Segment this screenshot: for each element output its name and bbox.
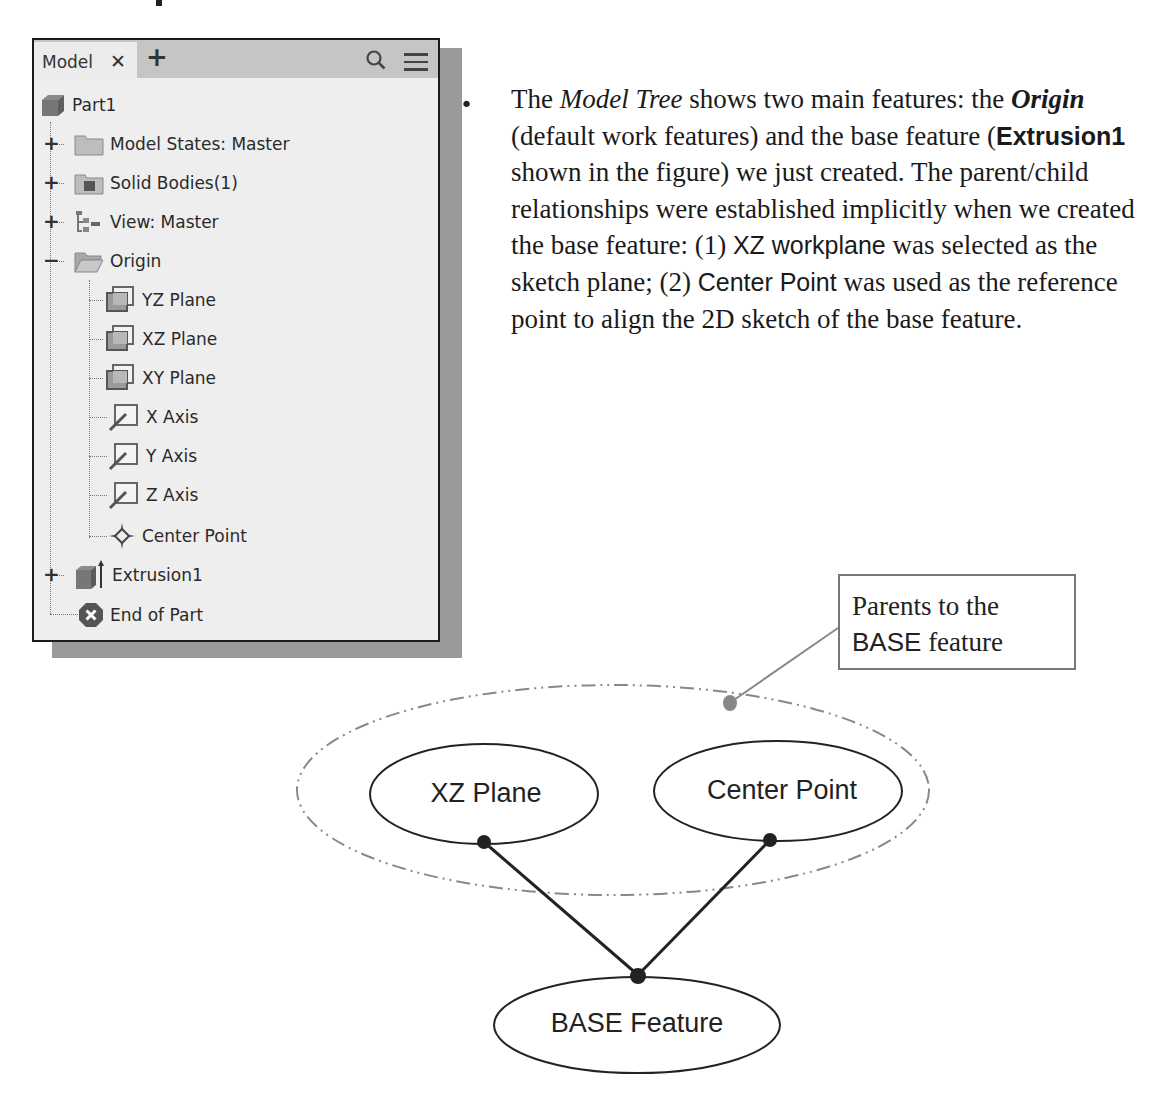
panel-tab-bar: Model ✕ + <box>34 40 438 78</box>
tree-item-xy-plane[interactable]: XY Plane <box>104 363 216 393</box>
menu-icon[interactable] <box>404 53 428 71</box>
folder-icon <box>74 132 104 156</box>
node-label-xz-plane: XZ Plane <box>430 778 541 809</box>
tree-item-label: Extrusion1 <box>112 565 203 585</box>
expand-icon[interactable]: + <box>43 209 57 233</box>
tree-item-x-axis[interactable]: X Axis <box>108 402 198 432</box>
node-label-base-feature: BASE Feature <box>551 1008 724 1039</box>
tree-item-view-master[interactable]: View: Master <box>74 207 219 237</box>
search-icon[interactable] <box>366 50 386 70</box>
tree-connector <box>89 456 107 457</box>
point-icon <box>108 522 136 550</box>
add-tab-icon[interactable]: + <box>146 44 168 70</box>
tree-item-xz-plane[interactable]: XZ Plane <box>104 324 217 354</box>
tree-item-label: Model States: Master <box>110 134 290 154</box>
connection-dot <box>763 833 777 847</box>
tree-connector <box>89 495 107 496</box>
plane-icon <box>104 363 136 393</box>
close-icon[interactable]: ✕ <box>110 50 126 72</box>
explanation-paragraph: The Model Tree shows two main features: … <box>511 81 1171 337</box>
tree-item-label: XY Plane <box>142 368 216 388</box>
plane-icon <box>104 285 136 315</box>
tree-item-label: XZ Plane <box>142 329 217 349</box>
extrusion-icon <box>74 560 106 590</box>
tree-item-label: View: Master <box>110 212 219 232</box>
heading-fragment <box>156 0 162 6</box>
text-run: shows two main features: the <box>682 84 1010 114</box>
tab-model-label: Model <box>42 52 93 72</box>
tree-item-label: End of Part <box>110 605 203 625</box>
text-run: (default work features) and the base fea… <box>511 121 996 151</box>
expand-icon[interactable]: + <box>43 562 57 586</box>
tree-item-model-states[interactable]: Model States: Master <box>74 129 290 159</box>
connection-dot <box>630 968 646 984</box>
open-folder-icon <box>74 249 104 273</box>
tree-item-label: Center Point <box>142 526 247 546</box>
callout-line-1: Parents to the <box>852 588 1074 624</box>
tree-item-y-axis[interactable]: Y Axis <box>108 441 197 471</box>
tree-item-origin[interactable]: Origin <box>74 246 161 276</box>
view-rep-icon <box>74 210 104 234</box>
term-origin: Origin <box>1011 84 1085 114</box>
tree-item-label: Part1 <box>72 95 116 115</box>
term-model-tree: Model Tree <box>560 84 683 114</box>
tree-item-label: Y Axis <box>146 446 197 466</box>
bullet-icon: • <box>460 92 473 117</box>
relation-line <box>484 842 638 975</box>
tree-connector <box>89 280 90 538</box>
tree-item-label: Solid Bodies(1) <box>110 173 238 193</box>
tree-item-solid-bodies[interactable]: Solid Bodies(1) <box>74 168 238 198</box>
tab-model[interactable]: Model ✕ <box>34 42 137 78</box>
tree-connector <box>89 536 107 537</box>
callout-box: Parents to the BASE feature <box>838 574 1076 670</box>
text-run: The <box>511 84 560 114</box>
tree-connector <box>89 300 103 301</box>
tree-connector <box>50 122 51 614</box>
tree-connector <box>89 339 103 340</box>
tree-item-z-axis[interactable]: Z Axis <box>108 480 198 510</box>
callout-term-base: BASE <box>852 627 921 657</box>
tree-item-label: X Axis <box>146 407 198 427</box>
term-center-point: Center Point <box>698 268 837 296</box>
expand-icon[interactable]: + <box>43 170 57 194</box>
axis-icon <box>108 441 140 471</box>
part-icon <box>40 93 66 117</box>
tree-item-label: Z Axis <box>146 485 198 505</box>
axis-icon <box>108 402 140 432</box>
tree-item-label: Origin <box>110 251 161 271</box>
relation-line <box>638 840 770 975</box>
tree-item-center-point[interactable]: Center Point <box>108 521 247 551</box>
tree-item-end-of-part[interactable]: End of Part <box>78 600 203 630</box>
callout-text: feature <box>921 627 1003 657</box>
tree-item-label: YZ Plane <box>142 290 216 310</box>
connection-dot <box>477 835 491 849</box>
collapse-icon[interactable]: − <box>43 248 57 272</box>
plane-icon <box>104 324 136 354</box>
callout-line-2: BASE feature <box>852 624 1074 660</box>
tree-item-extrusion1[interactable]: Extrusion1 <box>74 560 203 590</box>
end-of-part-icon <box>78 602 104 628</box>
expand-icon[interactable]: + <box>43 131 57 155</box>
leader-dot <box>723 695 737 711</box>
tree-item-yz-plane[interactable]: YZ Plane <box>104 285 216 315</box>
term-extrusion1: Extrusion1 <box>996 122 1125 150</box>
callout-leader-line <box>731 628 838 702</box>
tree-item-part1[interactable]: Part1 <box>40 90 116 120</box>
term-xz-workplane: XZ workplane <box>733 231 886 259</box>
tree-connector <box>89 378 103 379</box>
model-browser-panel: Model ✕ + Part1 + Model States: Master <box>32 38 440 642</box>
solid-bodies-folder-icon <box>74 171 104 195</box>
tree-connector <box>89 417 107 418</box>
node-label-center-point: Center Point <box>707 775 857 806</box>
tree-connector <box>50 614 78 615</box>
axis-icon <box>108 480 140 510</box>
